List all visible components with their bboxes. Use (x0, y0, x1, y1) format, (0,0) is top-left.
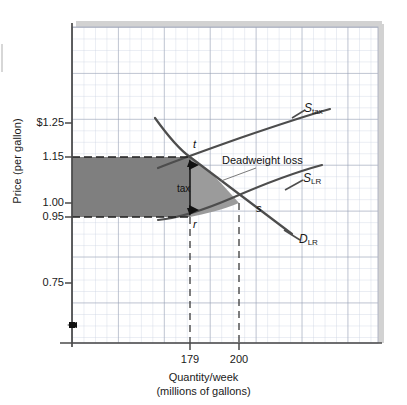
y-tick-label-115: 1.15 (12, 150, 64, 162)
grid-shadow-right (378, 24, 384, 343)
curve-label-d-lr-base: D (299, 232, 308, 246)
curve-label-s-lr-base: S (303, 171, 311, 185)
tax-arrow-label: tax (177, 183, 190, 194)
curve-label-s-lr-sub: LR (311, 177, 321, 186)
tax-revenue-region (72, 157, 190, 217)
curve-label-s-lr: SLR (303, 171, 321, 185)
curve-label-d-lr: DLR (299, 232, 318, 246)
curve-label-s-tax-sub: tax (312, 107, 323, 116)
x-tick-label-200: 200 (219, 353, 259, 365)
chart-figure: Price (per gallon) $1.25 1.15 1.00 0.95 … (0, 0, 407, 405)
y-tick-label-095: 0.95 (12, 210, 64, 222)
deadweight-loss-label: Deadweight loss (222, 154, 303, 166)
x-tick-label-179: 179 (170, 353, 210, 365)
point-label-r: r (193, 218, 197, 230)
x-axis-title-line2: (millions of gallons) (0, 385, 407, 397)
curve-label-s-tax: Stax (304, 101, 323, 115)
curve-label-d-lr-sub: LR (308, 238, 318, 247)
grid-shadow-top (76, 21, 382, 27)
x-axis-title-line1: Quantity/week (0, 371, 407, 383)
y-tick-label-100: 1.00 (12, 196, 64, 208)
curve-label-s-tax-base: S (304, 101, 312, 115)
point-label-t: t (193, 138, 196, 150)
y-tick-label-075: 0.75 (12, 276, 64, 288)
y-tick-label-125: $1.25 (12, 116, 64, 128)
point-label-s: s (256, 202, 262, 214)
